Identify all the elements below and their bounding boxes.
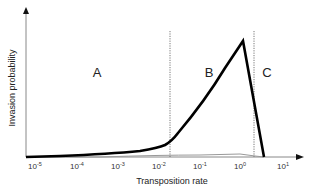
x-axis-arrow-icon — [296, 154, 304, 160]
y-axis-arrow-icon — [23, 7, 29, 14]
y-axis — [23, 7, 29, 157]
region-label-c: C — [262, 65, 271, 80]
invasion-probability-chart: A B C 10-5 10-4 10-3 10-2 10-1 100 101 T… — [0, 0, 310, 193]
svg-text:10-2: 10-2 — [152, 161, 166, 171]
svg-text:10-1: 10-1 — [193, 161, 207, 171]
svg-text:10-3: 10-3 — [111, 161, 125, 171]
main-curve — [26, 41, 264, 157]
svg-text:10-4: 10-4 — [70, 161, 84, 171]
svg-text:101: 101 — [277, 161, 289, 171]
region-label-b: B — [205, 65, 214, 80]
svg-text:100: 100 — [234, 161, 246, 171]
x-axis-title: Transposition rate — [136, 176, 208, 186]
y-axis-title: Invasion probability — [7, 49, 17, 127]
svg-text:10-5: 10-5 — [28, 161, 42, 171]
x-tick-labels: 10-5 10-4 10-3 10-2 10-1 100 101 — [28, 161, 289, 171]
region-label-a: A — [93, 65, 102, 80]
